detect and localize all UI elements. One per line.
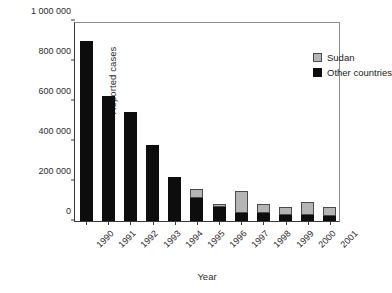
bar-segment-other-countries[interactable] <box>80 41 93 221</box>
x-tick-label: 1996 <box>228 228 249 249</box>
x-tick-mark <box>86 221 87 225</box>
x-tick-mark <box>108 221 109 225</box>
bar-segment-sudan[interactable] <box>257 204 270 212</box>
chart-legend: Sudan Other countries <box>313 51 392 81</box>
x-tick-label: 1991 <box>117 228 138 249</box>
bar-stack[interactable] <box>102 96 115 221</box>
y-tick-mark <box>71 60 75 61</box>
x-axis-title: Year <box>74 271 340 282</box>
bar-segment-sudan[interactable] <box>235 191 248 213</box>
x-tick-label: 2000 <box>316 228 337 249</box>
bar-segment-other-countries[interactable] <box>235 213 248 221</box>
x-tick-mark <box>175 221 176 225</box>
bar-stack[interactable] <box>213 204 226 221</box>
x-tick-label: 1995 <box>205 228 226 249</box>
y-tick-label: 0 <box>66 206 75 216</box>
bar-stack[interactable] <box>190 189 203 221</box>
bar-segment-other-countries[interactable] <box>279 215 292 221</box>
gray-swatch-icon <box>313 53 322 62</box>
black-swatch-icon <box>313 68 322 77</box>
x-tick-mark <box>153 221 154 225</box>
x-tick-label: 1993 <box>161 228 182 249</box>
x-tick-label: 2001 <box>338 228 359 249</box>
bar-stack[interactable] <box>146 145 159 221</box>
bar-segment-sudan[interactable] <box>301 202 314 214</box>
bar-stack[interactable] <box>279 207 292 221</box>
bar-segment-other-countries[interactable] <box>124 112 137 221</box>
bar-stack[interactable] <box>301 202 314 221</box>
legend-item-other-countries: Other countries <box>313 66 392 79</box>
y-tick-label: 1 000 000 <box>31 6 75 16</box>
bar-segment-other-countries[interactable] <box>213 207 226 221</box>
y-tick-mark <box>71 100 75 101</box>
x-tick-label: 1998 <box>272 228 293 249</box>
x-tick-label: 1990 <box>95 228 116 249</box>
bar-segment-sudan[interactable] <box>279 207 292 215</box>
legend-item-sudan: Sudan <box>313 51 392 64</box>
x-tick-mark <box>219 221 220 225</box>
x-tick-mark <box>130 221 131 225</box>
bar-stack[interactable] <box>323 207 336 221</box>
bar-segment-other-countries[interactable] <box>168 177 181 221</box>
bar-stack[interactable] <box>235 191 248 221</box>
x-tick-mark <box>330 221 331 225</box>
x-tick-label: 1992 <box>139 228 160 249</box>
legend-label-other-countries: Other countries <box>327 67 392 78</box>
bar-segment-other-countries[interactable] <box>190 198 203 221</box>
bar-stack[interactable] <box>80 41 93 221</box>
bar-segment-other-countries[interactable] <box>146 145 159 221</box>
bar-segment-other-countries[interactable] <box>301 215 314 221</box>
x-tick-mark <box>241 221 242 225</box>
x-tick-mark <box>263 221 264 225</box>
bar-segment-other-countries[interactable] <box>323 216 336 221</box>
bar-segment-sudan[interactable] <box>323 207 336 216</box>
bar-segment-other-countries[interactable] <box>102 96 115 221</box>
y-tick-label: 600 000 <box>38 86 75 96</box>
bar-stack[interactable] <box>168 177 181 221</box>
y-tick-label: 400 000 <box>38 126 75 136</box>
x-tick-label: 1994 <box>183 228 204 249</box>
y-tick-mark <box>71 180 75 181</box>
bar-segment-sudan[interactable] <box>190 189 203 198</box>
x-tick-label: 1999 <box>294 228 315 249</box>
x-tick-label: 1997 <box>250 228 271 249</box>
legend-label-sudan: Sudan <box>327 52 354 63</box>
bar-stack[interactable] <box>124 112 137 221</box>
y-tick-label: 200 000 <box>38 166 75 176</box>
y-tick-mark <box>71 220 75 221</box>
y-tick-mark <box>71 140 75 141</box>
plot-area: Reported cases 0200 000400 000600 000800… <box>74 22 340 222</box>
bar-segment-sudan[interactable] <box>213 204 226 207</box>
x-tick-mark <box>286 221 287 225</box>
y-tick-mark <box>71 20 75 21</box>
bar-stack[interactable] <box>257 204 270 221</box>
x-tick-mark <box>197 221 198 225</box>
y-tick-label: 800 000 <box>38 46 75 56</box>
bar-segment-other-countries[interactable] <box>257 213 270 221</box>
x-tick-mark <box>308 221 309 225</box>
